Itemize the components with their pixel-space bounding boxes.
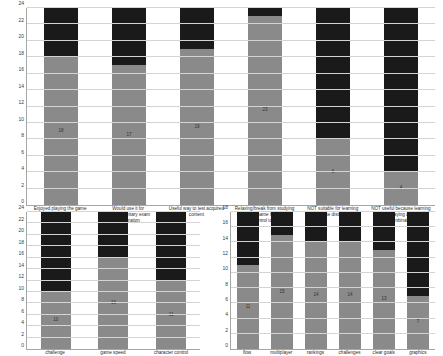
bar-segment-remainder <box>373 212 395 250</box>
x-axis-label: challenge <box>32 350 78 356</box>
plot-area-gameplay: 024681012141618202224 101611 challengega… <box>8 212 200 350</box>
y-axis-tick: 20 <box>18 34 24 39</box>
gridline <box>27 337 200 338</box>
y-axis-tick: 24 <box>18 205 24 210</box>
bar-segment-remainder <box>407 212 429 296</box>
x-axis-labels-gameplay: challengegame speedcharacter control <box>26 350 200 356</box>
chart-features: 024681012141618 11151414137 flowmultipla… <box>212 212 435 350</box>
y-axis-tick: 6 <box>21 308 24 313</box>
gridline <box>231 333 435 334</box>
gridline <box>231 287 435 288</box>
y-axis-tick: 14 <box>18 262 24 267</box>
gridline <box>27 73 435 74</box>
bar-segment-agree: 6 <box>316 139 350 205</box>
bar-group-gameplay: 101611 <box>27 212 200 349</box>
gridline <box>27 302 200 303</box>
y-axis-tick: 4 <box>21 320 24 325</box>
gridline <box>27 56 435 57</box>
y-axis-tick: 2 <box>21 331 24 336</box>
bar-segment-remainder <box>180 8 214 49</box>
bar-segment-agree: 13 <box>373 250 395 349</box>
gridline <box>27 245 200 246</box>
y-axis-tick: 10 <box>18 116 24 121</box>
bar-value-label: 15 <box>279 290 284 295</box>
bar-value-label: 10 <box>53 318 58 323</box>
bar-column: 13 <box>373 212 395 349</box>
x-axis-label: game speed <box>90 350 136 356</box>
y-axis-tick: 12 <box>18 100 24 105</box>
y-axis-tick: 6 <box>21 149 24 154</box>
bar-value-label: 7 <box>417 320 420 325</box>
bar-segment-agree: 7 <box>407 296 429 349</box>
y-axis-tick: 24 <box>18 1 24 6</box>
bar-value-label: 14 <box>347 293 352 298</box>
bar-segment-agree: 11 <box>237 265 259 349</box>
y-axis-tick: 6 <box>225 297 228 302</box>
plot-canvas-gameplay: 101611 <box>26 212 200 350</box>
gridline <box>27 280 200 281</box>
bar-value-label: 14 <box>313 293 318 298</box>
bar-column: 10 <box>41 212 71 349</box>
bar-column: 11 <box>156 212 186 349</box>
y-axis-perceptions: 024681012141618202224 <box>8 8 26 206</box>
gridline <box>27 171 435 172</box>
plot-canvas-perceptions: 1817192364 <box>26 8 435 206</box>
y-axis-tick: 0 <box>225 343 228 348</box>
y-axis-tick: 10 <box>222 266 228 271</box>
gridline <box>27 234 200 235</box>
bar-column: 23 <box>248 8 282 205</box>
gridline <box>231 318 435 319</box>
y-axis-tick: 22 <box>18 17 24 22</box>
gridline <box>27 291 200 292</box>
y-axis-gameplay: 024681012141618202224 <box>8 212 26 350</box>
bar-segment-remainder <box>384 8 418 172</box>
gridline <box>27 138 435 139</box>
plot-canvas-features: 11151414137 <box>230 212 435 350</box>
plot-area-perceptions: 024681012141618202224 1817192364 Enjoyed… <box>8 8 435 206</box>
bar-column: 11 <box>237 212 259 349</box>
gridline <box>27 40 435 41</box>
gridline <box>27 257 200 258</box>
bar-segment-remainder <box>98 212 128 258</box>
y-axis-tick: 14 <box>18 83 24 88</box>
bar-column: 18 <box>44 8 78 205</box>
y-axis-features: 024681012141618 <box>212 212 230 350</box>
gridline <box>27 89 435 90</box>
bar-column: 6 <box>316 8 350 205</box>
gridline <box>27 23 435 24</box>
y-axis-tick: 14 <box>222 235 228 240</box>
gridline <box>231 257 435 258</box>
bar-column: 4 <box>384 8 418 205</box>
bar-segment-agree: 17 <box>112 65 146 205</box>
y-axis-tick: 10 <box>18 285 24 290</box>
gridline <box>27 222 200 223</box>
y-axis-tick: 18 <box>222 205 228 210</box>
gridline <box>27 122 435 123</box>
bar-value-label: 23 <box>262 108 267 113</box>
bar-segment-remainder <box>271 212 293 235</box>
bar-value-label: 13 <box>381 297 386 302</box>
bar-column: 15 <box>271 212 293 349</box>
bar-group-perceptions: 1817192364 <box>27 8 435 205</box>
bar-column: 14 <box>305 212 327 349</box>
y-axis-tick: 4 <box>225 312 228 317</box>
gridline <box>27 211 200 212</box>
y-axis-tick: 0 <box>21 343 24 348</box>
bar-segment-remainder <box>305 212 327 242</box>
gridline <box>27 188 435 189</box>
bar-value-label: 18 <box>58 129 63 134</box>
gridline <box>231 226 435 227</box>
y-axis-tick: 18 <box>18 239 24 244</box>
y-axis-tick: 2 <box>21 182 24 187</box>
x-axis-label: flow <box>232 350 262 356</box>
gridline <box>27 7 435 8</box>
bar-segment-remainder <box>339 212 361 242</box>
bar-segment-agree: 18 <box>44 57 78 205</box>
y-axis-tick: 18 <box>18 50 24 55</box>
chart-perceptions: 024681012141618202224 1817192364 Enjoyed… <box>8 8 435 206</box>
gridline <box>27 155 435 156</box>
x-axis-label: clear goals <box>369 350 399 356</box>
gridline <box>27 268 200 269</box>
bar-segment-remainder <box>248 8 282 16</box>
bar-segment-agree: 23 <box>248 16 282 205</box>
